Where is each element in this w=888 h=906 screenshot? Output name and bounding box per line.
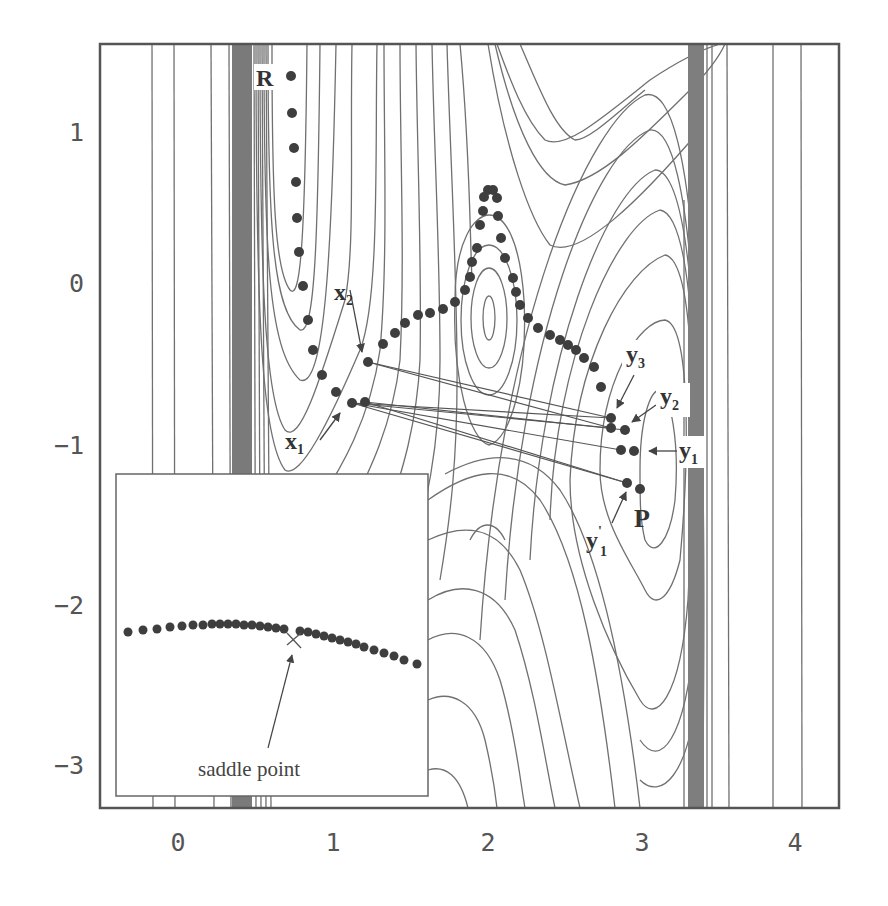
saddle-point-label: saddle point [198,757,300,781]
x-tick-4: 4 [787,828,802,857]
y-tick-neg2: −2 [54,591,84,620]
y-tick-neg3: −3 [54,751,84,780]
inset-box [116,474,428,796]
x-tick-0: 0 [170,828,185,857]
label-P: P [634,504,650,533]
label-R: R [256,65,274,91]
y-axis: 1 0 −1 −2 −3 [54,118,84,780]
inset-saddle-zoom: saddle point [116,474,428,796]
x-tick-3: 3 [634,828,649,857]
contour-chart: R x2 x1 y3 y2 y1 P y'1 [0,0,888,906]
right-steep-wall [688,44,704,808]
x-tick-1: 1 [325,828,340,857]
y-tick-neg1: −1 [54,431,84,460]
y-tick-1: 1 [69,118,84,147]
x-axis: 0 1 2 3 4 [170,828,802,857]
x-tick-2: 2 [480,828,495,857]
y-tick-0: 0 [69,269,84,298]
